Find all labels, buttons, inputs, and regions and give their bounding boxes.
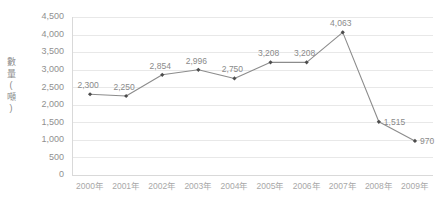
data-point-markers [88, 30, 417, 143]
y-tick-label: 500 [49, 152, 64, 162]
data-point-marker [268, 60, 272, 64]
y-tick-label: 3,000 [41, 64, 64, 74]
data-point-label: 2,854 [150, 61, 172, 71]
x-tick-label: 2004年 [220, 181, 248, 191]
y-tick-label: 4,500 [41, 11, 64, 21]
y-axis-title-char: 噸 [7, 91, 16, 102]
data-point-labels: 2,3002,2502,8542,9962,7503,2083,2084,063… [77, 18, 434, 146]
y-axis-title-char: 數 [7, 56, 16, 67]
data-point-label: 2,996 [186, 56, 208, 66]
data-point-label: 3,208 [294, 48, 316, 58]
data-point-label: 4,063 [330, 18, 352, 28]
y-axis-title-char: ) [10, 103, 13, 113]
x-tick-label: 2007年 [329, 181, 357, 191]
y-tick-label: 0 [59, 169, 64, 179]
data-point-label: 3,208 [258, 48, 280, 58]
line-chart: 05001,0001,5002,0002,5003,0003,5004,0004… [0, 0, 438, 203]
y-axis-title-char: ( [10, 80, 13, 90]
data-point-label: 2,300 [77, 80, 99, 90]
data-point-marker [88, 92, 92, 96]
data-point-label: 1,515 [384, 117, 406, 127]
y-tick-label: 2,500 [41, 82, 64, 92]
data-point-marker [413, 139, 417, 143]
data-point-marker [232, 76, 236, 80]
x-axis-tick-labels: 2000年2001年2002年2003年2004年2005年2006年2007年… [76, 181, 429, 191]
x-tick-label: 2009年 [401, 181, 429, 191]
chart-canvas: 05001,0001,5002,0002,5003,0003,5004,0004… [0, 0, 438, 203]
data-point-label: 2,750 [222, 64, 244, 74]
data-point-marker [377, 120, 381, 124]
x-tick-label: 2002年 [148, 181, 176, 191]
y-tick-label: 1,500 [41, 117, 64, 127]
data-point-marker [196, 68, 200, 72]
series-line [90, 32, 415, 141]
data-point-label: 970 [420, 136, 434, 146]
x-tick-label: 2006年 [293, 181, 321, 191]
series-polyline [90, 32, 415, 141]
y-tick-label: 1,000 [41, 134, 64, 144]
x-tick-label: 2001年 [112, 181, 140, 191]
y-tick-label: 4,000 [41, 29, 64, 39]
x-tick-label: 2003年 [184, 181, 212, 191]
data-point-label: 2,250 [114, 82, 136, 92]
y-axis-title: 數量(噸) [7, 56, 16, 113]
y-tick-label: 2,000 [41, 99, 64, 109]
x-tick-label: 2000年 [76, 181, 104, 191]
y-tick-label: 3,500 [41, 46, 64, 56]
y-axis-title-char: 量 [7, 69, 16, 79]
x-tick-label: 2008年 [365, 181, 393, 191]
x-tick-label: 2005年 [257, 181, 285, 191]
y-axis-tick-labels: 05001,0001,5002,0002,5003,0003,5004,0004… [41, 11, 64, 179]
